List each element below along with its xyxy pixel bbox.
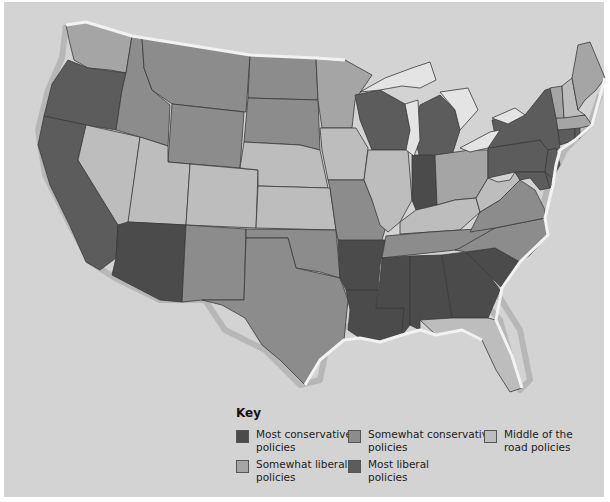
key-title: Key (236, 406, 261, 420)
state-SD[interactable] (244, 98, 320, 150)
key-item-somewhat-liberal: Somewhat liberal policies (236, 458, 356, 484)
state-AR[interactable] (338, 240, 385, 290)
map-key: Key Most conservative policies Somewhat … (236, 404, 596, 494)
state-AZ[interactable] (112, 222, 186, 302)
state-NM[interactable] (182, 225, 246, 302)
key-label: Middle of the road policies (504, 428, 594, 454)
state-IA[interactable] (320, 128, 368, 180)
key-label: Somewhat liberal policies (256, 458, 356, 484)
state-WY[interactable] (168, 104, 244, 168)
state-FL[interactable] (420, 318, 522, 392)
state-CO[interactable] (186, 164, 258, 228)
swatch-most-conservative (236, 430, 249, 443)
swatch-somewhat-conservative (348, 430, 361, 443)
state-KS[interactable] (256, 186, 336, 230)
state-IN[interactable] (412, 155, 437, 210)
key-item-middle: Middle of the road policies (484, 428, 594, 454)
key-label: Most liberal policies (368, 458, 458, 484)
state-ND[interactable] (248, 55, 318, 100)
swatch-middle-of-road (484, 430, 497, 443)
swatch-most-liberal (348, 460, 361, 473)
lake-superior (360, 62, 436, 92)
swatch-somewhat-liberal (236, 460, 249, 473)
key-item-most-liberal: Most liberal policies (348, 458, 458, 484)
